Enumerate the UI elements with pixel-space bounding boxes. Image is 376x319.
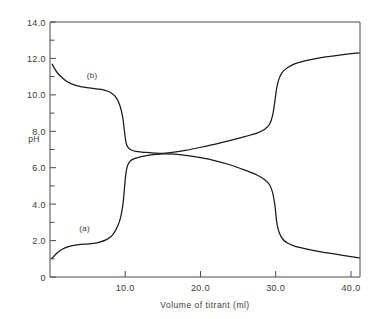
series-label-b: (b)	[87, 71, 98, 80]
chart-canvas: 14.0 12.0 10.0 8.0 6.0 4.0 2.0 0 10.0 20…	[0, 0, 376, 319]
y-tick-label: 2.0	[32, 236, 46, 246]
x-tick-label: 30.0	[266, 283, 285, 293]
x-axis-title: Volume of titrant (ml)	[160, 300, 249, 310]
data-series-group	[52, 53, 359, 258]
x-tick-label: 10.0	[116, 283, 135, 293]
series-annotations: (a) (b)	[79, 71, 97, 234]
y-axis-title: pH	[28, 134, 40, 144]
y-tick-label: 14.0	[27, 18, 46, 28]
x-tick-label: 20.0	[191, 283, 210, 293]
y-axis-ticks	[50, 22, 56, 277]
y-tick-label: 0	[41, 273, 46, 283]
titration-curve-figure: 14.0 12.0 10.0 8.0 6.0 4.0 2.0 0 10.0 20…	[0, 0, 376, 319]
y-tick-label: 12.0	[27, 54, 46, 64]
curve-series-a	[52, 154, 359, 259]
y-tick-label: 10.0	[27, 90, 46, 100]
x-tick-labels: 10.0 20.0 30.0 40.0	[116, 283, 361, 293]
x-tick-label: 40.0	[341, 283, 360, 293]
plot-frame	[50, 22, 360, 277]
x-axis-ticks	[125, 271, 351, 277]
y-tick-label: 4.0	[32, 200, 46, 210]
curve-series-b	[52, 53, 359, 153]
y-tick-labels: 14.0 12.0 10.0 8.0 6.0 4.0 2.0 0	[27, 18, 46, 283]
y-tick-label: 6.0	[32, 163, 46, 173]
series-label-a: (a)	[79, 224, 90, 233]
